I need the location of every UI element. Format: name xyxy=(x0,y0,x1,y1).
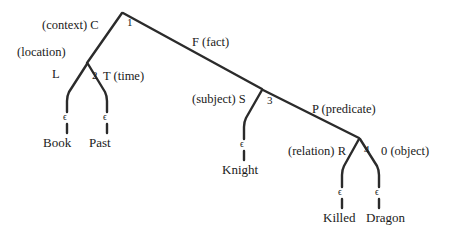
parse-tree-diagram: 1 2 3 4 (context) C F (fact) (location) … xyxy=(0,0,454,230)
edge-label-object: 0 (object) xyxy=(381,145,429,158)
epsilon-past: ϵ xyxy=(103,113,107,123)
edge-label-subject: (subject) S xyxy=(192,93,246,106)
epsilon-killed: ϵ xyxy=(338,188,342,198)
leaf-word-past: Past xyxy=(89,136,111,149)
edge-location-line xyxy=(67,64,87,112)
leaf-word-book: Book xyxy=(43,136,71,149)
edge-label-fact: F (fact) xyxy=(192,36,229,49)
node-number-3: 3 xyxy=(267,95,273,106)
edge-subject-line xyxy=(244,90,262,139)
epsilon-knight: ϵ xyxy=(240,140,244,150)
node-number-1: 1 xyxy=(127,17,133,28)
node-number-4: 4 xyxy=(364,144,370,155)
leaf-word-dragon: Dragon xyxy=(366,211,405,224)
epsilon-dragon: ϵ xyxy=(375,188,379,198)
epsilon-book: ϵ xyxy=(63,113,67,123)
leaf-word-killed: Killed xyxy=(323,211,356,224)
leaf-word-knight: Knight xyxy=(222,163,258,176)
edge-label-relation: (relation) R xyxy=(288,145,346,158)
edge-label-time: T (time) xyxy=(103,70,144,83)
edge-label-predicate: P (predicate) xyxy=(312,103,376,116)
node-number-2: 2 xyxy=(92,70,98,81)
edge-label-context: (context) C xyxy=(42,19,99,32)
edge-label-location-symbol: L xyxy=(52,68,60,81)
edge-label-location: (location) xyxy=(17,46,66,59)
